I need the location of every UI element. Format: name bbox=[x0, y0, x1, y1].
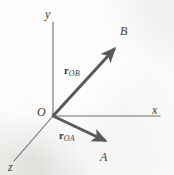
axis-label-x: x bbox=[152, 104, 157, 116]
point-label-a: A bbox=[100, 151, 107, 163]
vector-diagram-figure: y x z O B A rOB rOA bbox=[0, 0, 174, 175]
vector-label-roa-subscript: OA bbox=[64, 134, 75, 143]
vector-label-rob: rOB bbox=[64, 66, 80, 78]
origin-label: O bbox=[37, 106, 46, 118]
origin-point bbox=[52, 115, 55, 118]
axis-line-z bbox=[14, 116, 53, 161]
point-label-b: B bbox=[120, 25, 127, 37]
vector-arrow-rob bbox=[53, 48, 115, 116]
vector-label-roa: rOA bbox=[59, 131, 75, 143]
vector-label-rob-subscript: OB bbox=[69, 69, 80, 78]
vector-diagram-canvas bbox=[0, 0, 174, 175]
axis-label-z: z bbox=[8, 161, 13, 173]
axis-label-y: y bbox=[45, 8, 50, 20]
